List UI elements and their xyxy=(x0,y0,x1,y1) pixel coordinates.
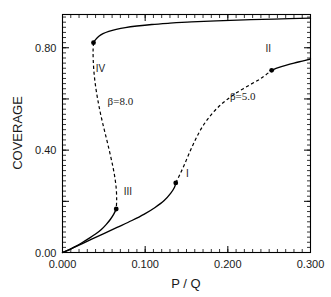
x-tick-label: 0.100 xyxy=(131,258,159,270)
x-tick-label: 0.200 xyxy=(214,258,242,270)
y-tick-label: 0.40 xyxy=(35,144,56,156)
chart-figure: IVIIIIIIβ=8.0β=5.0 0.0000.1000.2000.300 … xyxy=(0,0,331,297)
branch-annotation: III xyxy=(124,186,132,197)
beta-annotation: β=8.0 xyxy=(108,95,134,107)
x-tick-label: 0.000 xyxy=(49,258,77,270)
branch-annotation: I xyxy=(186,168,189,179)
x-axis-title: P / Q xyxy=(171,276,200,291)
y-tick-label: 0.80 xyxy=(35,42,56,54)
branch-annotation: IV xyxy=(96,63,106,74)
marker-point-II xyxy=(269,68,274,73)
marker-point-IV xyxy=(91,40,96,45)
y-axis-title: COVERAGE xyxy=(10,96,25,170)
x-tick-label: 0.300 xyxy=(297,258,325,270)
beta-annotation: β=5.0 xyxy=(230,90,256,102)
coverage-vs-pq-plot: IVIIIIIIβ=8.0β=5.0 0.0000.1000.2000.300 … xyxy=(0,0,331,297)
y-tick-label: 0.00 xyxy=(35,247,56,259)
marker-point-III xyxy=(114,207,119,212)
marker-point-I xyxy=(173,180,178,185)
branch-annotation: II xyxy=(266,43,272,54)
